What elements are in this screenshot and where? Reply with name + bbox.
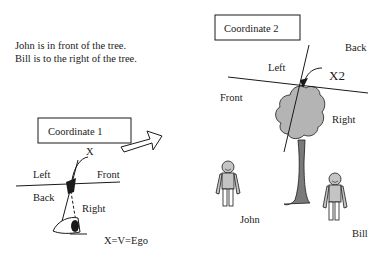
coordinate1-right-label: Right — [82, 203, 105, 214]
coordinate2-left-label: Left — [268, 62, 286, 73]
x-pointer-curve — [72, 157, 88, 180]
bill-figure — [323, 173, 347, 220]
john-label: John — [240, 214, 261, 225]
coordinate1-back-label: Back — [33, 192, 55, 203]
coordinate1-left-label: Left — [33, 169, 51, 180]
coordinate2-right-label: Right — [332, 114, 355, 125]
ego-equation: X=V=Ego — [104, 235, 148, 246]
coordinate2-front-label: Front — [220, 92, 243, 103]
perspective-diagram: John is in front of the tree. Bill is to… — [0, 0, 384, 261]
coordinate2-title: Coordinate 2 — [224, 23, 279, 34]
tree-icon — [276, 86, 325, 205]
coordinate1-front-label: Front — [97, 169, 120, 180]
coordinate1-title: Coordinate 1 — [48, 126, 103, 137]
coordinate2-back-label: Back — [345, 42, 367, 53]
john-figure — [216, 161, 240, 206]
bill-label: Bill — [352, 228, 368, 239]
origin-arrowhead-icon — [66, 178, 76, 194]
coordinate1-x-label: X — [86, 146, 94, 157]
statement-john: John is in front of the tree. — [15, 40, 126, 51]
coordinate2-x2-label: X2 — [329, 68, 345, 83]
statement-bill: Bill is to the right of the tree. — [15, 53, 137, 64]
coordinate2-panel: Coordinate 2 Back Left X2 Front Right Jo… — [215, 15, 368, 239]
coordinate1-panel: Coordinate 1 X Left Front Back Right X=V… — [16, 118, 148, 246]
eye-icon — [53, 218, 87, 234]
